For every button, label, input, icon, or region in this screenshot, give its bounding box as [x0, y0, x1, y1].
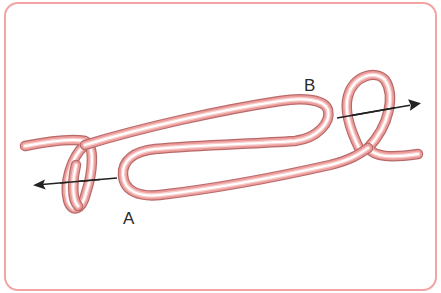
label-a: A	[123, 210, 134, 227]
left-loop-front-segment	[73, 165, 78, 206]
rope-front-strand	[85, 99, 368, 195]
label-b: B	[304, 77, 315, 94]
rope-knot-diagram	[0, 0, 441, 293]
